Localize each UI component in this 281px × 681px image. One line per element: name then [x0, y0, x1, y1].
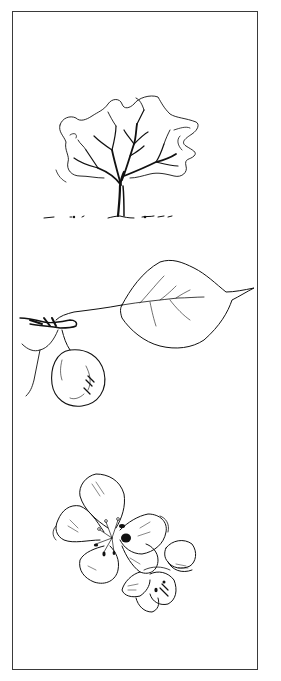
tree-panel	[0, 90, 281, 230]
flower-panel	[0, 460, 281, 620]
leaf-with-fruit-icon	[0, 255, 281, 420]
blossom-icon	[0, 460, 281, 620]
leaf-fruit-panel	[0, 255, 281, 420]
tree-icon	[0, 90, 281, 230]
